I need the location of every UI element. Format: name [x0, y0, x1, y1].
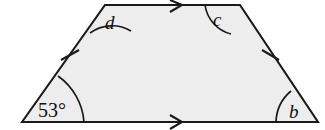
angle-label-top-right: c	[213, 9, 222, 30]
angle-label-bottom-right: b	[289, 101, 299, 122]
angle-label-bottom-left: 53°	[38, 99, 66, 121]
trapezoid-diagram: 53° d c b	[0, 0, 325, 130]
trapezoid-interior-fill	[22, 5, 318, 122]
geometry-figure: 53° d c b	[0, 0, 325, 130]
angle-label-top-left: d	[105, 12, 115, 33]
